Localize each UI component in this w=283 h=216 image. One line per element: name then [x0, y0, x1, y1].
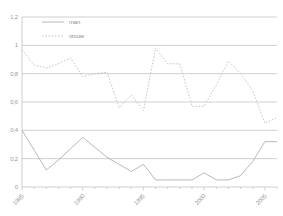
series-line-man — [22, 130, 277, 180]
series-line-vrouw — [22, 48, 277, 123]
y-axis-tick-label: 0,4 — [0, 127, 18, 133]
y-axis-tick-label: 1 — [0, 42, 18, 48]
y-axis-tick-label: 0,8 — [0, 71, 18, 77]
legend-label-vrouw: vrouw — [69, 33, 84, 39]
y-axis-tick-label: 0,2 — [0, 156, 18, 162]
gridlines — [22, 17, 277, 159]
series-layer — [22, 48, 277, 180]
legend-line-samples — [42, 22, 64, 36]
line-chart — [0, 0, 283, 216]
y-axis-tick-label: 0,6 — [0, 99, 18, 105]
chart-container: 1,210,80,60,40,20 19851990199520002005 m… — [0, 0, 283, 216]
x-axis-ticks — [22, 187, 277, 191]
legend-label-man: man — [69, 19, 80, 25]
y-axis-tick-label: 1,2 — [0, 14, 18, 20]
y-axis-tick-label: 0 — [0, 184, 18, 190]
